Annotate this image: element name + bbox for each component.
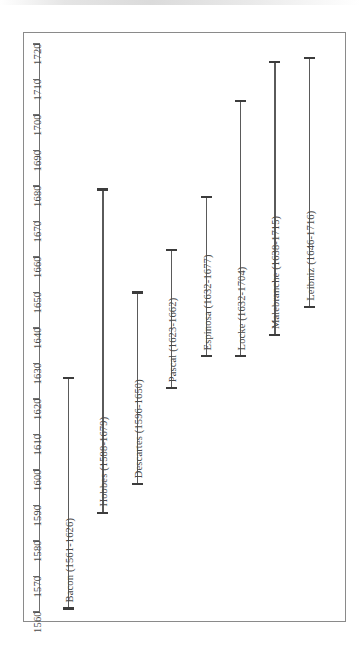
axis-tick-label: 1660 [32,256,43,278]
bar-label: Locke (1632-1704) [236,266,247,350]
bar-label: Espinosa (1632-1677) [202,254,213,350]
scan-artifact [0,0,360,5]
bar-label: Bacon (1561-1626) [64,518,75,603]
bar-label: Malebranche (1638-1715) [270,216,281,329]
axis-tick-label: 1640 [32,327,43,349]
bar-cap-death [201,196,212,198]
bar-label: Hobbes (1588-1679) [98,417,109,507]
axis-tick-label: 1670 [32,221,43,243]
bar-cap-birth [304,306,315,308]
bar-cap-birth [63,607,74,609]
bar-cap-death [132,291,143,293]
axis-tick-label: 1700 [32,114,43,136]
axis-tick-label: 1600 [32,469,43,491]
axis-tick-label: 1620 [32,398,43,420]
axis-tick-label: 1580 [32,540,43,562]
bar-cap-death [304,57,315,59]
bar-cap-birth [235,355,246,357]
axis-tick-label: 1650 [32,292,43,314]
bar-cap-death [63,377,74,379]
axis-tick-label: 1570 [32,576,43,598]
axis-tick-label: 1720 [32,43,43,65]
bar-cap-birth [166,387,177,389]
bar-cap-death [269,61,280,63]
axis-tick-label: 1710 [32,79,43,101]
bar-cap-birth [201,355,212,357]
axis-tick-label: 1680 [32,185,43,207]
axis-tick-label: 1560 [32,611,43,633]
axis-tick-label: 1630 [32,363,43,385]
bar-cap-death [97,188,108,190]
timeline-figure: 1560157015801590160016101620163016401650… [0,0,360,664]
bar-cap-birth [269,334,280,336]
bar-label: Leibniz (1646-1716) [305,211,316,301]
axis-tick-label: 1690 [32,150,43,172]
bar-cap-birth [132,483,143,485]
bar-cap-death [166,249,177,251]
bar-cap-birth [97,512,108,514]
bar-label: Pascal (1623-1662) [167,298,178,383]
axis-tick-label: 1610 [32,434,43,456]
bar-cap-death [235,100,246,102]
axis-tick-label: 1590 [32,505,43,527]
bar-label: Descartes (1596-1650) [133,379,144,478]
